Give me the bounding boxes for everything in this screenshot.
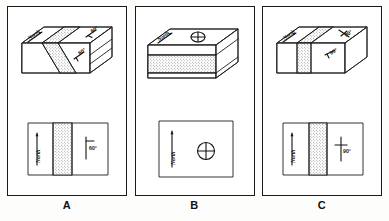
panel-a-map-view: North 60° xyxy=(8,107,126,191)
panel-b-map-view: North xyxy=(136,107,254,191)
panel-b-frame: North North xyxy=(135,6,255,196)
svg-text:90°: 90° xyxy=(343,148,351,154)
panel-c-frame: North 90° 90° xyxy=(262,6,382,196)
svg-text:North: North xyxy=(170,152,176,166)
horizontal-bed-symbol-block-b xyxy=(191,32,205,42)
panel-a: North 60° 60° xyxy=(6,6,128,216)
panel-c: North 90° 90° xyxy=(261,6,383,216)
panel-c-map-view: North 90° xyxy=(263,107,381,191)
figure-root: North 60° 60° xyxy=(0,0,389,221)
panel-b: North North xyxy=(134,6,256,216)
panel-c-letter: C xyxy=(318,199,326,211)
svg-text:North: North xyxy=(290,150,296,164)
svg-text:North: North xyxy=(35,150,41,164)
panel-b-letter: B xyxy=(190,199,198,211)
panel-b-block-diagram: North xyxy=(136,15,254,99)
horizontal-bed-symbol-map-b xyxy=(197,143,214,160)
panel-a-block-diagram: North 60° 60° xyxy=(8,15,126,99)
panel-a-letter: A xyxy=(63,199,71,211)
svg-text:60°: 60° xyxy=(89,145,97,151)
panel-a-frame: North 60° 60° xyxy=(7,6,127,196)
panel-c-block-diagram: North 90° 90° xyxy=(263,15,381,99)
